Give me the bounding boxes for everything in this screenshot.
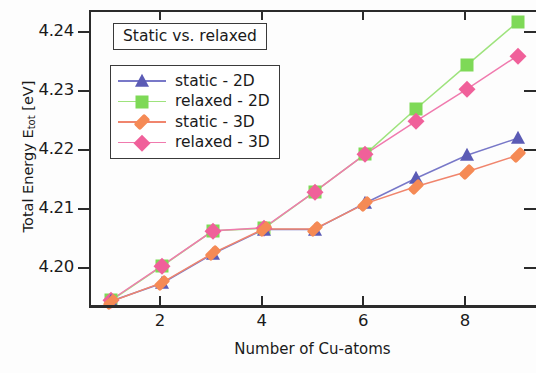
legend-item[interactable]: relaxed - 3D: [118, 133, 270, 154]
legend-marker-icon: [134, 114, 151, 131]
data-point-marker: [511, 16, 524, 29]
legend-label: relaxed - 3D: [175, 135, 270, 151]
chart-title-box: Static vs. relaxed: [113, 23, 267, 50]
y-axis-title-subscript: tot: [26, 115, 37, 129]
legend-marker-sample: [118, 134, 166, 152]
chart-figure: Total Energy Etot [eV] Number of Cu-atom…: [0, 0, 536, 373]
y-axis-tick-label: 4.23: [14, 82, 74, 99]
legend-label: static - 2D: [175, 74, 255, 90]
y-axis-tick-label: 4.20: [14, 259, 74, 276]
data-point-marker: [509, 147, 526, 164]
legend: static - 2Drelaxed - 2Dstatic - 3Drelaxe…: [110, 65, 280, 159]
y-axis-tick-label: 4.24: [14, 23, 74, 40]
legend-marker-icon: [136, 95, 149, 108]
y-axis-tick-label-wrap: 4.20: [0, 268, 74, 269]
y-axis-tick-label-wrap: 4.23: [0, 91, 74, 92]
legend-label: static - 3D: [175, 115, 255, 131]
data-point-marker: [460, 59, 473, 72]
data-point-marker: [458, 163, 475, 180]
y-axis-tick-label: 4.22: [14, 141, 74, 158]
data-point-marker: [510, 47, 526, 63]
data-point-marker: [511, 131, 525, 144]
x-axis-tick-label: 2: [140, 313, 180, 330]
legend-marker-sample: [118, 113, 166, 131]
x-axis-tick-label: 4: [242, 313, 282, 330]
legend-marker-sample: [118, 93, 166, 111]
legend-marker-sample: [118, 72, 166, 90]
legend-label: relaxed - 2D: [175, 94, 270, 110]
x-axis-tick-label: 8: [445, 313, 485, 330]
legend-item[interactable]: static - 3D: [118, 112, 270, 133]
y-axis-tick: [78, 149, 89, 151]
series-line: [111, 22, 517, 300]
data-point-marker: [459, 81, 475, 97]
legend-item[interactable]: relaxed - 2D: [118, 92, 270, 113]
data-point-marker: [460, 148, 474, 161]
y-axis-tick: [78, 208, 89, 210]
legend-item[interactable]: static - 2D: [118, 71, 270, 92]
x-axis-tick-label: 6: [343, 313, 383, 330]
series-line: [111, 138, 517, 301]
y-axis-tick: [78, 31, 89, 33]
x-axis-line: [89, 305, 536, 308]
y-axis-tick-label-wrap: 4.24: [0, 32, 74, 33]
x-axis-title: Number of Cu-atoms: [89, 340, 536, 358]
y-axis-tick-label-wrap: 4.21: [0, 209, 74, 210]
legend-marker-icon: [135, 74, 149, 87]
y-axis-tick: [78, 267, 89, 269]
legend-marker-icon: [134, 135, 150, 151]
y-axis-tick-label-wrap: 4.22: [0, 150, 74, 151]
y-axis-tick-label: 4.21: [14, 200, 74, 217]
data-point-marker: [408, 113, 424, 129]
y-axis-tick: [78, 90, 89, 92]
